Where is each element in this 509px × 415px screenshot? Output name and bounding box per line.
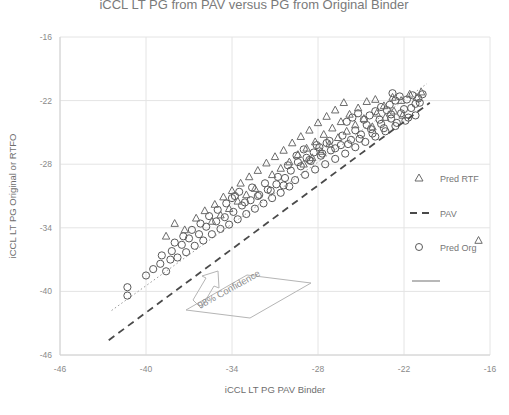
x-tick-label: -22: [398, 364, 411, 374]
y-tick-label: -40: [40, 286, 53, 296]
x-axis-label: iCCL LT PG PAV Binder: [225, 384, 325, 395]
confidence-label: 98% Confidence: [196, 267, 262, 310]
data-point-circle: [183, 249, 190, 256]
data-point-triangle: [418, 88, 425, 95]
data-point-circle: [261, 180, 268, 187]
y-axis-label: iCCL LT PG Original or RTFO: [7, 134, 18, 259]
data-point-circle: [339, 132, 346, 139]
data-point-triangle: [211, 200, 218, 207]
data-point-triangle: [297, 133, 304, 140]
data-point-triangle: [280, 146, 287, 153]
confidence-annotation: 98% Confidence: [186, 267, 311, 318]
y-tick-label: -22: [40, 96, 53, 106]
data-point-circle: [356, 135, 363, 142]
data-point-triangle: [181, 226, 188, 233]
data-point-circle: [236, 188, 243, 195]
data-point-triangle: [320, 131, 327, 138]
data-point-triangle: [254, 167, 261, 174]
data-point-circle: [251, 205, 258, 212]
data-point-circle: [195, 231, 202, 238]
data-point-circle: [200, 237, 207, 244]
fit-line: [112, 84, 427, 311]
data-point-circle: [171, 239, 178, 246]
data-point-circle: [292, 177, 299, 184]
data-point-circle: [277, 189, 284, 196]
data-point-circle: [168, 248, 175, 255]
data-point-circle: [174, 254, 181, 261]
data-point-circle: [281, 174, 288, 181]
y-axis-ticks: -16-22-28-34-40-46: [40, 32, 53, 360]
data-point-triangle: [271, 153, 278, 160]
data-point-circle: [178, 241, 185, 248]
data-point-triangle: [263, 159, 270, 166]
data-point-circle: [163, 268, 170, 275]
data-point-circle: [352, 144, 359, 151]
legend-circle-icon: [416, 244, 423, 251]
data-point-circle: [234, 216, 241, 223]
data-point-triangle: [372, 96, 379, 103]
x-tick-label: -34: [226, 364, 239, 374]
data-point-triangle: [237, 179, 244, 186]
data-point-circle: [124, 292, 131, 299]
legend-label-pred-rtf: Pred RTF: [440, 174, 479, 184]
data-point-triangle: [306, 126, 313, 133]
data-point-triangle: [343, 127, 350, 134]
y-tick-label: -46: [40, 350, 53, 360]
y-tick-label: -28: [40, 159, 53, 169]
x-tick-label: -16: [484, 364, 497, 374]
chart-title: iCCL LT PG from PAV versus PG from Origi…: [99, 0, 409, 12]
data-point-circle: [327, 147, 334, 154]
data-point-circle: [150, 266, 157, 273]
data-point-triangle: [332, 106, 339, 113]
data-point-triangle: [289, 139, 296, 146]
legend-label-pav: PAV: [440, 209, 457, 219]
data-point-triangle: [201, 207, 208, 214]
x-axis-ticks: -46-40-34-28-22-16: [54, 364, 497, 374]
data-point-circle: [260, 200, 267, 207]
chart-container: iCCL LT PG from PAV versus PG from Origi…: [0, 0, 509, 415]
data-point-circle: [124, 284, 131, 291]
data-points: [124, 88, 482, 299]
data-point-circle: [191, 242, 198, 249]
pav-reference-line: [109, 103, 430, 340]
data-point-triangle: [246, 173, 253, 180]
legend-label-pred-org: Pred Org: [440, 243, 477, 253]
data-point-circle: [302, 171, 309, 178]
x-tick-label: -40: [140, 364, 153, 374]
data-point-triangle: [277, 164, 284, 171]
data-point-triangle: [171, 220, 178, 227]
data-point-circle: [342, 150, 349, 157]
data-point-circle: [158, 252, 165, 259]
data-point-circle: [157, 260, 164, 267]
data-point-triangle: [340, 99, 347, 106]
data-point-circle: [208, 231, 215, 238]
data-point-triangle: [334, 134, 341, 141]
data-point-triangle: [220, 193, 227, 200]
x-tick-label: -46: [54, 364, 67, 374]
data-point-triangle: [323, 113, 330, 120]
pav-line: [109, 103, 430, 340]
x-tick-label: -28: [312, 364, 325, 374]
data-point-triangle: [192, 214, 199, 221]
data-point-triangle: [243, 191, 250, 198]
data-point-circle: [332, 155, 339, 162]
data-point-circle: [408, 104, 415, 111]
data-point-triangle: [268, 171, 275, 178]
data-point-circle: [217, 225, 224, 232]
data-point-triangle: [329, 124, 336, 131]
legend-triangle-icon: [415, 174, 423, 181]
data-point-circle: [243, 210, 250, 217]
data-point-circle: [273, 181, 280, 188]
y-tick-label: -34: [40, 223, 53, 233]
data-point-triangle: [162, 232, 169, 239]
data-point-circle: [167, 256, 174, 263]
y-tick-label: -16: [40, 32, 53, 42]
